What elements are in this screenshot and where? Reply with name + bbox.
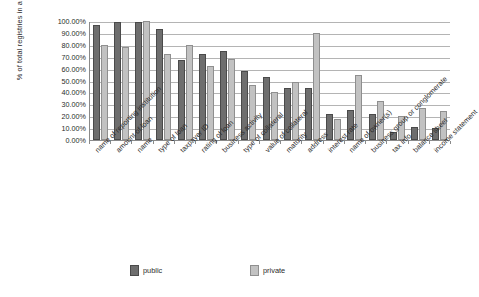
bar-private[interactable] xyxy=(440,111,447,140)
chart-legend: publicprivate xyxy=(130,264,330,278)
y-axis-tick-label: 30.00% xyxy=(62,101,86,109)
bar-public[interactable] xyxy=(114,22,121,140)
x-axis-ticks xyxy=(89,141,450,145)
y-axis-tick-label: 100.00% xyxy=(58,18,86,26)
legend-label: public xyxy=(143,266,162,275)
bar-group xyxy=(263,22,279,140)
legend-label: private xyxy=(263,266,285,275)
bar-group xyxy=(178,22,194,140)
y-axis-tick-labels: 100.00%90.00%80.00%70.00%60.00%50.00%40.… xyxy=(32,18,88,144)
x-axis-tick xyxy=(386,141,387,144)
bar-private[interactable] xyxy=(101,45,108,140)
bar-group xyxy=(135,22,151,140)
x-axis-tick xyxy=(429,141,430,144)
bar-public[interactable] xyxy=(263,77,270,140)
y-axis-tick-label: 40.00% xyxy=(62,89,86,97)
bar-private[interactable] xyxy=(355,75,362,140)
x-axis-tick xyxy=(195,141,196,144)
bar-group xyxy=(432,22,448,140)
x-axis-tick xyxy=(174,141,175,144)
bar-private[interactable] xyxy=(419,108,426,140)
bar-public[interactable] xyxy=(156,29,163,140)
x-axis-tick xyxy=(323,141,324,144)
bar-private[interactable] xyxy=(334,119,341,140)
x-axis-tick xyxy=(365,141,366,144)
y-axis-tick-label: 20.00% xyxy=(62,113,86,121)
bar-public[interactable] xyxy=(432,128,439,140)
bar-public[interactable] xyxy=(93,25,100,140)
bar-group xyxy=(411,22,427,140)
bar-public[interactable] xyxy=(326,114,333,140)
bar-public[interactable] xyxy=(347,110,354,140)
bar-private[interactable] xyxy=(377,101,384,140)
bar-private[interactable] xyxy=(398,116,405,140)
bar-public[interactable] xyxy=(178,60,185,140)
bar-public[interactable] xyxy=(241,71,248,140)
bar-private[interactable] xyxy=(313,33,320,140)
x-axis-tick xyxy=(238,141,239,144)
y-axis-tick-label: 70.00% xyxy=(62,54,86,62)
x-axis-tick xyxy=(110,141,111,144)
bar-private[interactable] xyxy=(292,82,299,140)
bar-private[interactable] xyxy=(186,45,193,140)
x-axis-tick xyxy=(301,141,302,144)
bar-group xyxy=(199,22,215,140)
bar-group xyxy=(347,22,363,140)
bar-public[interactable] xyxy=(220,51,227,140)
bar-public[interactable] xyxy=(284,88,291,140)
bar-group xyxy=(156,22,172,140)
bar-group xyxy=(241,22,257,140)
y-axis-title: % of total registries in a category xyxy=(13,0,27,89)
legend-swatch-icon xyxy=(130,265,139,276)
x-axis-tick xyxy=(344,141,345,144)
bars-layer xyxy=(90,22,450,140)
bar-group xyxy=(114,22,130,140)
bar-group xyxy=(93,22,109,140)
x-axis-tick xyxy=(450,141,451,144)
bar-private[interactable] xyxy=(228,59,235,140)
bar-public[interactable] xyxy=(390,132,397,140)
y-axis-tick-label: 80.00% xyxy=(62,42,86,50)
x-axis-tick xyxy=(280,141,281,144)
bar-public[interactable] xyxy=(135,22,142,140)
bar-group xyxy=(220,22,236,140)
x-axis-tick xyxy=(89,141,90,144)
bar-private[interactable] xyxy=(207,66,214,140)
bar-public[interactable] xyxy=(411,127,418,140)
y-axis-tick-label: 10.00% xyxy=(62,125,86,133)
x-axis-tick xyxy=(259,141,260,144)
bar-private[interactable] xyxy=(249,85,256,140)
bar-private[interactable] xyxy=(122,47,129,140)
bar-private[interactable] xyxy=(164,54,171,140)
legend-item-public[interactable]: public xyxy=(130,264,162,276)
plot-area xyxy=(89,22,450,141)
y-axis-tick-label: 50.00% xyxy=(62,78,86,86)
bar-group xyxy=(390,22,406,140)
bar-public[interactable] xyxy=(305,88,312,140)
bar-private[interactable] xyxy=(271,92,278,140)
bar-group xyxy=(369,22,385,140)
y-axis-tick-label: 60.00% xyxy=(62,66,86,74)
legend-item-private[interactable]: private xyxy=(250,264,285,276)
bar-group xyxy=(305,22,321,140)
x-axis-tick xyxy=(131,141,132,144)
x-axis-tick xyxy=(153,141,154,144)
y-axis-tick-label: 0.00% xyxy=(66,137,86,145)
y-axis-tick-label: 90.00% xyxy=(62,30,86,38)
bar-public[interactable] xyxy=(199,54,206,140)
bar-group xyxy=(284,22,300,140)
x-axis-tick xyxy=(216,141,217,144)
x-axis-tick xyxy=(408,141,409,144)
bar-group xyxy=(326,22,342,140)
bar-private[interactable] xyxy=(143,21,150,140)
legend-swatch-icon xyxy=(250,265,259,276)
bar-public[interactable] xyxy=(369,114,376,140)
